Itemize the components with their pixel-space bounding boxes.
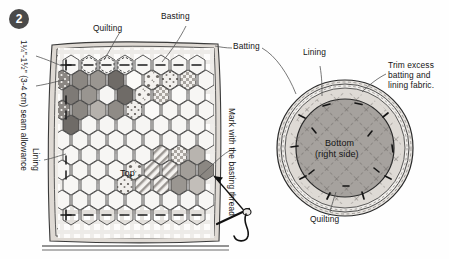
leader-batting-circle [262, 48, 296, 94]
label-bottom-right-side: (right side) [315, 149, 359, 159]
figure-canvas: 2 [0, 0, 449, 259]
label-batting: Batting [233, 42, 260, 52]
label-basting: Basting [161, 12, 190, 22]
label-quilting-top: Quilting [93, 24, 122, 34]
label-quilting-bottom: Quilting [310, 215, 339, 225]
label-lining-left: Lining [30, 148, 40, 171]
label-seam-allowance: 1¼"-1½" (3-4 cm) seam allowance [18, 40, 28, 140]
hexagon-field [54, 48, 214, 238]
label-top: Top [120, 168, 135, 178]
label-bottom: Bottom [325, 138, 354, 148]
label-lining-circle: Lining [303, 48, 326, 58]
label-trim-excess: Trim excess batting and lining fabric. [388, 60, 448, 90]
quilt-top-panel [42, 42, 229, 250]
label-mark-with-basting-thread: Mark with the basting thread [226, 108, 236, 216]
diagram-svg [0, 0, 449, 259]
